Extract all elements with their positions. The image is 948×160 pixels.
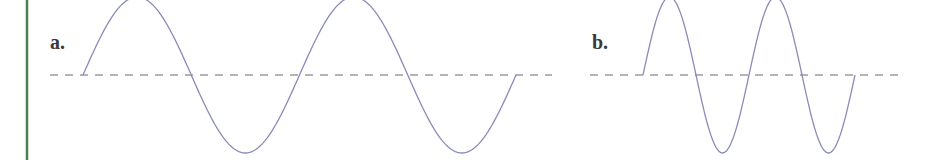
panel-label-b: b. (592, 31, 608, 53)
panel-b: b. (590, 0, 903, 153)
panel-label-a: a. (50, 31, 65, 53)
panel-a: a. (50, 0, 552, 153)
sine-wave-b (643, 0, 855, 153)
diagram-stage: a. b. (0, 0, 948, 160)
sine-wave-a (83, 0, 516, 153)
